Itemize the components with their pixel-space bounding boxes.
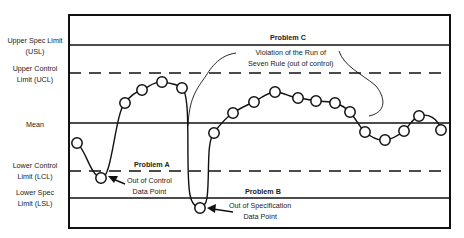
data-point — [414, 111, 424, 121]
data-point — [436, 125, 446, 135]
problem-c-line1: Violation of the Run of — [248, 47, 334, 58]
data-point — [360, 127, 370, 137]
problem-b-line1: Out of Specification — [229, 200, 291, 211]
lcl-label-line2: Limit (LCL) — [2, 171, 68, 182]
data-point — [228, 108, 238, 118]
ucl-label: Upper Control Limit (UCL) — [2, 63, 68, 85]
problem-a-arrow — [108, 176, 125, 184]
problem-c-line2: Seven Rule (out of control) — [248, 58, 334, 69]
data-point — [293, 93, 303, 103]
lcl-label: Lower Control Limit (LCL) — [2, 160, 68, 182]
data-point — [380, 135, 390, 145]
data-point — [120, 98, 130, 108]
data-point — [345, 107, 355, 117]
problem-c-desc: Violation of the Run of Seven Rule (out … — [248, 47, 334, 69]
data-point — [72, 138, 82, 148]
data-point — [249, 97, 259, 107]
usl-label-line1: Upper Spec Limit — [2, 35, 68, 46]
mean-label-line1: Mean — [2, 119, 68, 130]
lsl-label: Lower Spec Limit (LSL) — [2, 187, 68, 209]
data-point — [330, 98, 340, 108]
data-point — [399, 126, 409, 136]
problem-c-title: Problem C — [270, 32, 306, 43]
lsl-label-line1: Lower Spec — [2, 187, 68, 198]
problem-a-line1: Out of Control — [127, 175, 172, 186]
data-point — [96, 173, 106, 183]
ucl-label-line1: Upper Control — [2, 63, 68, 74]
data-point — [157, 77, 167, 87]
ucl-label-line2: Limit (UCL) — [2, 74, 68, 85]
usl-label: Upper Spec Limit (USL) — [2, 35, 68, 57]
data-point — [137, 85, 147, 95]
problem-a-title: Problem A — [134, 159, 170, 170]
problem-b-title: Problem B — [245, 186, 281, 197]
data-point — [311, 96, 321, 106]
problem-a-line2: Data Point — [127, 186, 172, 197]
lcl-label-line1: Lower Control — [2, 160, 68, 171]
problem-b-desc: Out of Specification Data Point — [229, 200, 291, 222]
problem-a-desc: Out of Control Data Point — [127, 175, 172, 197]
data-point — [270, 87, 280, 97]
problem-b-line2: Data Point — [229, 211, 291, 222]
usl-label-line2: (USL) — [2, 46, 68, 57]
lsl-label-line2: Limit (LSL) — [2, 198, 68, 209]
problem-c-callout-right — [339, 51, 383, 116]
data-point — [209, 128, 219, 138]
data-point — [195, 203, 205, 213]
data-point — [177, 83, 187, 93]
mean-label: Mean — [2, 119, 68, 130]
